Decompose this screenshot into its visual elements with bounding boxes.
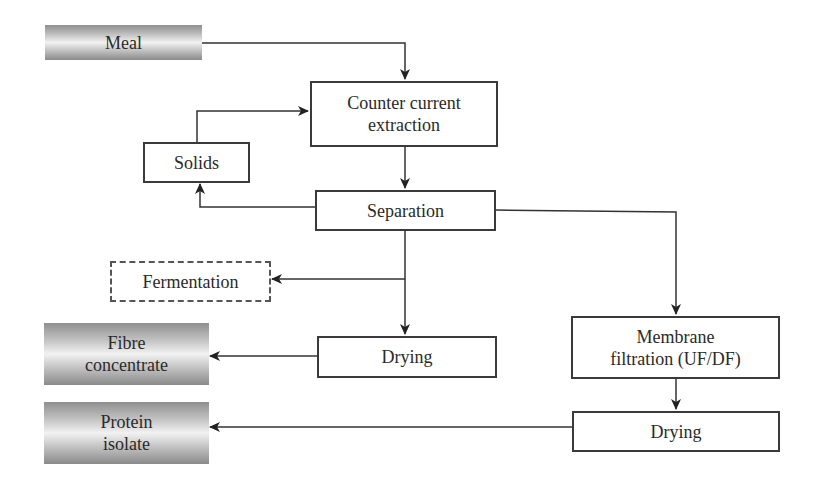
- node-separation: Separation: [315, 190, 496, 231]
- node-membrane-filtration: Membrane filtration (UF/DF): [571, 316, 780, 379]
- node-drying-fibre: Drying: [317, 336, 497, 378]
- node-fermentation: Fermentation: [110, 261, 271, 302]
- node-drying-fibre-label: Drying: [382, 346, 433, 368]
- node-drying-protein: Drying: [572, 411, 780, 452]
- node-fermentation-label: Fermentation: [143, 271, 239, 293]
- node-counter-current-extraction: Counter current extraction: [310, 81, 498, 147]
- edge-solids-to-extraction: [197, 111, 308, 142]
- node-fibre-concentrate: Fibre concentrate: [44, 323, 209, 385]
- edge-meal-to-extraction: [202, 43, 405, 79]
- node-meal-label: Meal: [105, 32, 142, 54]
- node-fibre-line2: concentrate: [85, 354, 168, 376]
- node-meal: Meal: [45, 25, 202, 60]
- node-membrane-line2: filtration (UF/DF): [610, 348, 741, 370]
- node-fibre-line1: Fibre: [108, 332, 146, 354]
- edge-separation-to-membrane: [495, 210, 676, 314]
- edge-separation-to-solids: [200, 184, 315, 207]
- node-protein-line1: Protein: [101, 411, 153, 433]
- node-separation-label: Separation: [367, 200, 444, 222]
- node-drying-protein-label: Drying: [651, 421, 702, 443]
- node-solids: Solids: [143, 142, 250, 183]
- node-solids-label: Solids: [174, 152, 219, 174]
- node-protein-line2: isolate: [103, 433, 150, 455]
- node-membrane-line1: Membrane: [637, 326, 715, 348]
- node-extraction-line2: extraction: [368, 114, 440, 136]
- node-extraction-line1: Counter current: [347, 92, 460, 114]
- node-protein-isolate: Protein isolate: [44, 402, 209, 464]
